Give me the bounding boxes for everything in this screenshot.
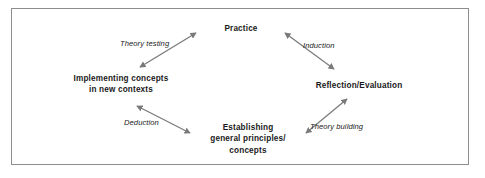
edge-label-theory-testing: Theory testing	[120, 39, 169, 48]
node-establishing-general-principles: Establishing general principles/ concept…	[190, 122, 306, 156]
edge-label-induction: Induction	[303, 41, 335, 50]
node-reflection-evaluation: Reflection/Evaluation	[296, 80, 422, 91]
diagram-canvas: Practice Implementing concepts in new co…	[0, 0, 485, 178]
node-practice: Practice	[196, 23, 286, 34]
arrow-induction	[285, 33, 334, 69]
node-implementing-concepts: Implementing concepts in new contexts	[58, 73, 184, 96]
edge-label-deduction: Deduction	[124, 118, 159, 127]
edge-label-theory-building: Theory building	[310, 122, 363, 131]
